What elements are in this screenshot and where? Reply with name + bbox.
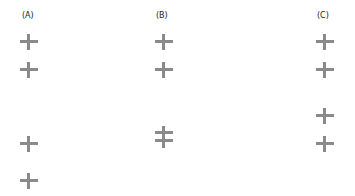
plus-icon [20,62,38,78]
panel-c-label: (C) [317,11,329,20]
plus-icon [316,34,334,50]
plus-icon [155,34,173,50]
double-plus-icon [155,126,173,148]
plus-icon [20,34,38,50]
plus-icon [316,136,334,152]
plus-icon [20,173,38,189]
plus-icon [20,136,38,152]
plus-icon [155,62,173,78]
plus-icon [316,62,334,78]
plus-icon [316,108,334,124]
panel-a-label: (A) [22,11,34,20]
panel-b-label: (B) [156,11,168,20]
